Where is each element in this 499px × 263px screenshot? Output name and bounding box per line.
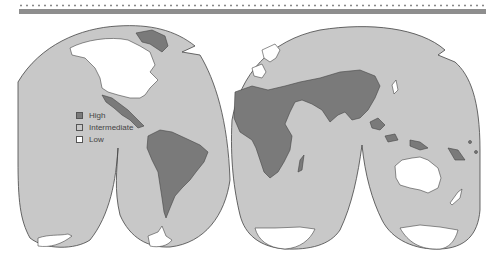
legend-label-high: High [89, 111, 105, 120]
legend-item-intermediate: Intermediate [76, 121, 133, 133]
map-legend: High Intermediate Low [76, 109, 133, 145]
legend-item-low: Low [76, 133, 133, 145]
legend-swatch-intermediate [76, 124, 83, 131]
legend-label-low: Low [89, 135, 104, 144]
legend-item-high: High [76, 109, 133, 121]
legend-swatch-low [76, 136, 83, 143]
legend-swatch-high [76, 112, 83, 119]
world-map [0, 0, 499, 263]
legend-label-intermediate: Intermediate [89, 123, 133, 132]
